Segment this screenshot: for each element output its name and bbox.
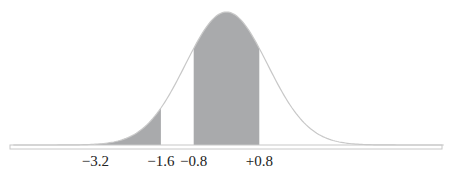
- tick-label: +0.8: [246, 153, 273, 169]
- baseline-bar: [10, 145, 442, 149]
- x-axis-tick-labels: −3.2−1.6−0.8+0.8: [82, 153, 273, 169]
- tick-label: −3.2: [82, 153, 109, 169]
- tick-label: −1.6: [147, 153, 175, 169]
- tick-label: −0.8: [180, 153, 207, 169]
- shaded-region-1: [95, 108, 161, 145]
- shaded-regions: [95, 12, 259, 145]
- normal-distribution-chart: −3.2−1.6−0.8+0.8: [0, 0, 449, 177]
